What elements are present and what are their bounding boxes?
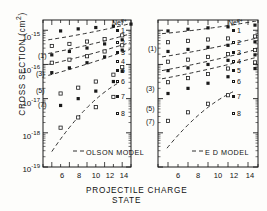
model-curve [162, 21, 258, 34]
data-point-open [59, 126, 62, 129]
model-curve [48, 34, 131, 54]
data-point-filled [226, 25, 229, 28]
data-point-filled [226, 75, 229, 78]
data-point-open [94, 106, 97, 109]
data-point-filled [112, 25, 115, 28]
data-point-filled [68, 66, 71, 69]
data-point-filled [226, 44, 229, 47]
data-point-filled [186, 48, 189, 51]
data-point-open [186, 58, 189, 61]
data-series-5 [50, 48, 124, 74]
data-point-filled [50, 71, 53, 74]
data-point-filled [59, 29, 62, 32]
data-point-filled [186, 87, 189, 90]
data-point-open [226, 37, 229, 40]
data-point-filled [226, 59, 229, 62]
data-point-filled [166, 92, 169, 95]
data-point-open [85, 40, 88, 43]
data-series-3 [166, 40, 256, 53]
panel-frame [158, 20, 258, 167]
data-series-2 [50, 34, 124, 48]
data-point-filled [253, 53, 256, 56]
data-point-open [206, 72, 209, 75]
data-point-open [206, 102, 209, 105]
model-curve [48, 49, 131, 75]
data-point-open [206, 55, 209, 58]
data-point-filled [77, 97, 80, 100]
data-point-open [121, 66, 124, 69]
data-point-filled [253, 24, 256, 27]
data-point-open [166, 81, 169, 84]
data-point-filled [206, 26, 209, 29]
data-point-open [50, 44, 53, 47]
data-point-open [186, 111, 189, 114]
data-point-filled [253, 40, 256, 43]
data-point-open [68, 42, 71, 45]
data-point-filled [121, 48, 124, 51]
data-point-open [68, 58, 71, 61]
data-point-open [226, 94, 229, 97]
data-series-8 [59, 95, 115, 129]
data-point-open [253, 61, 256, 64]
data-point-open [112, 73, 115, 76]
data-point-filled [166, 50, 169, 53]
data-point-filled [206, 82, 209, 85]
data-point-open [253, 35, 256, 38]
data-point-filled [253, 67, 256, 70]
data-series-1 [59, 23, 133, 33]
data-point-open [85, 55, 88, 58]
data-point-filled [85, 46, 88, 49]
data-point-filled [206, 46, 209, 49]
data-point-open [206, 38, 209, 41]
data-point-filled [85, 61, 88, 64]
data-point-filled [94, 26, 97, 29]
data-point-filled [103, 55, 106, 58]
data-point-filled [166, 29, 169, 32]
data-point-filled [50, 53, 53, 56]
data-point-open [121, 34, 124, 37]
data-series-7 [166, 67, 256, 95]
left-panel [43, 20, 133, 167]
data-point-open [226, 53, 229, 56]
data-point-filled [59, 104, 62, 107]
data-series-8 [166, 94, 229, 123]
data-series-4 [166, 48, 256, 63]
data-series-6 [166, 61, 256, 84]
data-series-2 [166, 35, 256, 44]
data-point-open [166, 41, 169, 44]
data-point-open [94, 80, 97, 83]
data-point-open [50, 61, 53, 64]
data-point-open [166, 60, 169, 63]
data-point-open [103, 50, 106, 53]
model-curve [162, 49, 258, 71]
data-point-filled [94, 90, 97, 93]
data-series-5 [166, 53, 256, 72]
data-point-open [186, 77, 189, 80]
data-point-open [103, 38, 106, 41]
data-point-open [186, 39, 189, 42]
data-point-filled [77, 27, 80, 30]
x-axis-title-line2: STATE [112, 196, 141, 205]
data-point-open [112, 95, 115, 98]
data-point-filled [68, 50, 71, 53]
data-point-open [77, 86, 80, 89]
data-point-filled [186, 28, 189, 31]
figure-canvas: CROSS SECTION (cm2) 10-15 10-16 10-17 10… [0, 0, 267, 211]
data-point-filled [121, 70, 124, 73]
data-point-filled [103, 42, 106, 45]
data-point-filled [112, 80, 115, 83]
data-point-open [121, 44, 124, 47]
data-point-open [253, 48, 256, 51]
data-point-filled [166, 69, 169, 72]
data-point-open [59, 92, 62, 95]
data-point-open [166, 119, 169, 122]
plot-vector-layer [0, 0, 267, 211]
data-point-filled [186, 66, 189, 69]
data-point-open [226, 67, 229, 70]
data-point-filled [129, 23, 132, 26]
data-point-filled [206, 63, 209, 66]
data-point-open [77, 116, 80, 119]
data-point-filled [121, 38, 124, 41]
model-curve [167, 92, 233, 148]
right-panel [158, 20, 258, 167]
